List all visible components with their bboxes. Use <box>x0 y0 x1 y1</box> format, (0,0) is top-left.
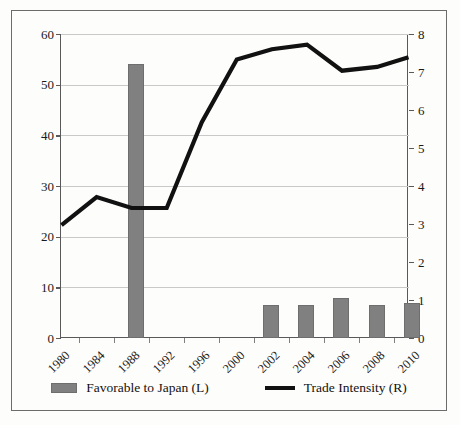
right-axis-tick <box>409 110 414 111</box>
category-tick <box>114 338 115 343</box>
right-axis-tick <box>409 300 414 301</box>
right-axis-tick-label: 2 <box>418 256 448 269</box>
category-tick <box>289 338 290 343</box>
category-tick <box>254 338 255 343</box>
category-tick <box>394 338 395 343</box>
right-axis-tick-label: 7 <box>418 66 448 79</box>
left-axis-tick-label: 30 <box>14 180 54 193</box>
chart-figure: 60 50 40 30 20 10 0 8 7 6 5 4 3 2 1 0 <box>0 0 460 425</box>
legend-label-trade-intensity: Trade Intensity (R) <box>304 381 407 395</box>
bar-swatch-icon <box>51 383 77 393</box>
right-axis-tick-label: 3 <box>418 218 448 231</box>
category-tick <box>79 338 80 343</box>
category-tick <box>219 338 220 343</box>
right-axis-tick <box>409 224 414 225</box>
right-axis-tick-label: 4 <box>418 180 448 193</box>
trade-intensity-line[interactable] <box>61 34 409 338</box>
category-tick <box>324 338 325 343</box>
category-tick <box>184 338 185 343</box>
legend-label-favorable: Favorable to Japan (L) <box>86 381 209 395</box>
category-tick <box>359 338 360 343</box>
right-axis-tick-label: 6 <box>418 104 448 117</box>
legend-entry-trade-intensity[interactable]: Trade Intensity (R) <box>265 381 407 395</box>
plot-area <box>60 34 408 338</box>
right-axis-tick <box>409 34 414 35</box>
left-axis-tick-label: 40 <box>14 129 54 142</box>
line-swatch-icon <box>265 386 295 390</box>
right-axis-tick <box>409 72 414 73</box>
category-tick <box>149 338 150 343</box>
right-axis-tick <box>409 148 414 149</box>
left-axis-tick-label: 10 <box>14 281 54 294</box>
left-axis-tick-label: 20 <box>14 230 54 243</box>
left-axis-tick-label: 0 <box>14 332 54 345</box>
right-axis-tick-label: 5 <box>418 142 448 155</box>
right-axis-tick <box>409 338 414 339</box>
left-axis-tick <box>56 338 61 339</box>
right-axis-tick <box>409 186 414 187</box>
legend-entry-favorable[interactable]: Favorable to Japan (L) <box>51 381 209 395</box>
right-axis-tick-label: 8 <box>418 28 448 41</box>
right-axis-tick-label: 1 <box>418 294 448 307</box>
left-axis-tick-label: 50 <box>14 78 54 91</box>
right-axis-tick-label: 0 <box>418 332 448 345</box>
right-axis-tick <box>409 262 414 263</box>
chart-legend: Favorable to Japan (L) Trade Intensity (… <box>11 381 447 395</box>
left-axis-tick-label: 60 <box>14 28 54 41</box>
